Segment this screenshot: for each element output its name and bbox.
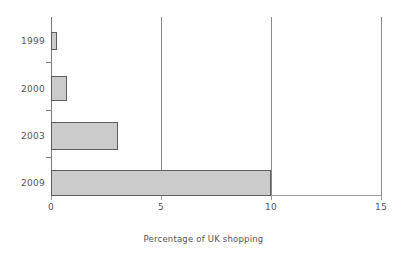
x-axis-label-10: 10: [265, 202, 277, 212]
x-axis-label-0: 0: [48, 202, 54, 212]
bar-2009[interactable]: [51, 170, 271, 196]
y-axis-tick-mark: [46, 62, 51, 63]
y-axis-label-2003: 2003: [21, 131, 45, 141]
x-axis-tick-mark: [51, 196, 52, 200]
y-axis-label-2000: 2000: [21, 84, 45, 94]
y-axis-label-2009: 2009: [21, 178, 45, 188]
bar-2003[interactable]: [51, 122, 118, 150]
x-axis-tick-mark: [381, 196, 382, 200]
bar-2000[interactable]: [51, 76, 67, 101]
y-axis-tick-mark: [46, 110, 51, 111]
bar-chart: 1999200020032009 051015 Percentage of UK…: [0, 0, 407, 261]
gridline: [381, 17, 382, 196]
x-axis-label-5: 5: [158, 202, 164, 212]
gridline: [271, 17, 272, 196]
x-axis-tick-mark: [271, 196, 272, 200]
bar-1999[interactable]: [51, 32, 57, 50]
x-axis-tick-mark: [161, 196, 162, 200]
y-axis-tick-mark: [46, 157, 51, 158]
x-axis-title: Percentage of UK shopping: [0, 234, 407, 244]
x-axis-label-15: 15: [375, 202, 387, 212]
y-axis-label-1999: 1999: [21, 36, 45, 46]
